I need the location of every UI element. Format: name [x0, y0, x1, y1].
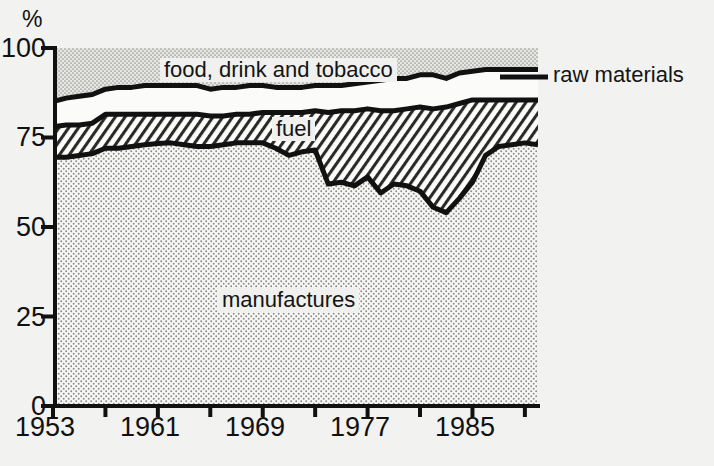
- x-tick-label-1977: 1977: [330, 414, 390, 441]
- y-tick-label-25: 25: [0, 304, 46, 331]
- x-tick-label-1953: 1953: [15, 414, 75, 441]
- y-axis-unit-label: %: [22, 8, 42, 31]
- x-tick-label-1969: 1969: [225, 414, 285, 441]
- x-tick-label-1985: 1985: [435, 414, 495, 441]
- plot-area: [53, 48, 538, 406]
- series-label-fuel: fuel: [272, 117, 315, 141]
- x-tick-label-1961: 1961: [120, 414, 180, 441]
- y-tick-label-100: 100: [0, 35, 46, 62]
- series-label-manufactures: manufactures: [218, 288, 359, 312]
- series-label-food-drink-tobacco: food, drink and tobacco: [160, 58, 397, 82]
- y-tick-label-50: 50: [0, 214, 46, 241]
- y-tick-label-75: 75: [0, 124, 46, 151]
- series-label-raw-materials: raw materials: [553, 64, 684, 86]
